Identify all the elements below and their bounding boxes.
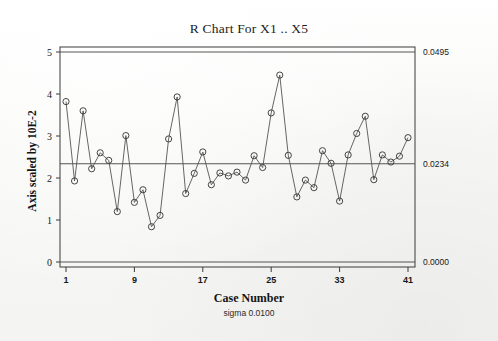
y-tick-label: 0 [47,257,52,268]
series-markers [63,72,411,230]
chart-page: R Chart For X1 .. X5 012345 1917253341 0… [0,0,498,341]
control-limit-lines [60,52,415,262]
y-axis-ticks: 012345 [47,47,60,268]
y-tick-label: 2 [47,173,52,184]
right-axis-labels: 0.04950.02340.0000 [423,47,449,267]
y-tick-label: 1 [47,215,52,226]
x-tick-label: 41 [403,275,413,285]
r-chart-plot: 012345 1917253341 0.04950.02340.0000 [0,0,498,341]
plot-frame [60,47,415,267]
x-axis-title: Case Number [0,291,498,306]
x-tick-label: 1 [63,275,68,285]
right-axis-label-center-line: 0.0234 [423,159,449,169]
x-tick-label: 9 [132,275,137,285]
series-line [66,75,408,227]
x-axis-ticks: 1917253341 [63,267,413,285]
x-tick-label: 25 [266,275,276,285]
chart-subtitle: sigma 0.0100 [0,308,498,318]
right-axis-label-lower-control-limit: 0.0000 [423,257,449,267]
y-axis-title: Axis scaled by 10E-2 [26,61,38,261]
right-axis-label-upper-control-limit: 0.0495 [423,47,449,57]
x-tick-label: 17 [198,275,208,285]
y-tick-label: 3 [47,131,52,142]
x-tick-label: 33 [335,275,345,285]
y-tick-label: 4 [47,89,52,100]
y-tick-label: 5 [47,47,52,58]
